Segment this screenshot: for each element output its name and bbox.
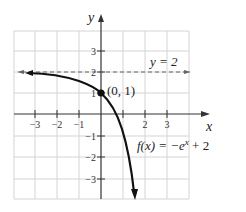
x-tick-label: −3 (30, 119, 41, 130)
function-label-prefix: f(x) = −e (137, 138, 185, 153)
function-label-suffix: + 2 (189, 138, 209, 153)
function-graph: −3 −2 −1 2 3 3 2 1 −1 −2 −3 x y y = 2 (0… (0, 0, 246, 212)
y-tick-label: −2 (85, 152, 96, 163)
y-axis-label: y (86, 10, 95, 25)
x-axis-label: x (205, 119, 213, 134)
x-axis (14, 111, 210, 117)
asymptote-label: y = 2 (148, 54, 178, 69)
x-tick-label: −1 (74, 119, 85, 130)
x-tick-label: 3 (165, 119, 170, 130)
y-tick-label: 3 (91, 46, 96, 57)
x-tick-label: −2 (52, 119, 63, 130)
x-tick-label: 2 (143, 119, 148, 130)
function-label: f(x) = −ex + 2 (137, 137, 209, 153)
y-tick-label: −3 (85, 174, 96, 185)
y-tick-label: −1 (85, 131, 96, 142)
y-axis (98, 14, 104, 199)
intercept-point-marker (97, 89, 104, 96)
point-label: (0, 1) (107, 83, 135, 98)
